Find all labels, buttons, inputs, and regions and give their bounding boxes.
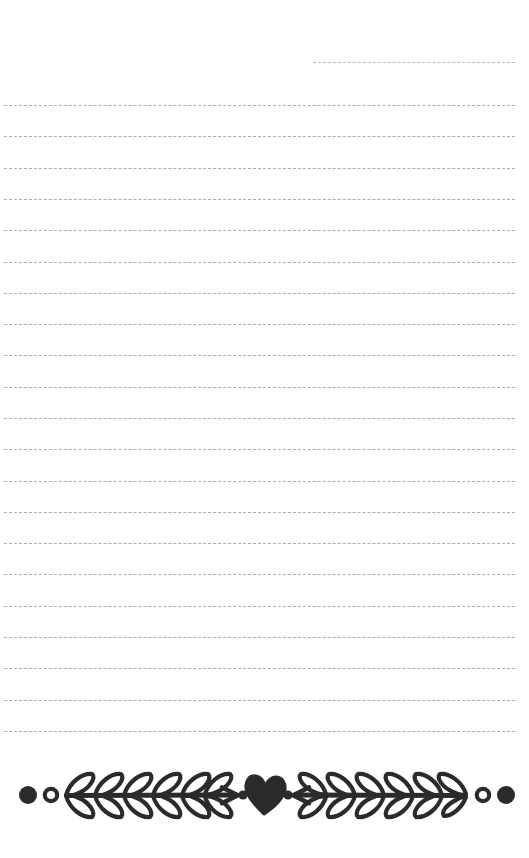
leaf-left-4-bottom [153,795,180,817]
journal-page [0,0,529,858]
leaf-right-3-top [357,774,384,796]
ruled-line [4,136,515,137]
leaf-right-4-top [386,774,413,796]
ruled-line [4,293,515,294]
ruled-line [4,731,515,732]
ruled-line [4,637,515,638]
leaf-right-3-bottom [357,795,384,817]
ruled-line [4,199,515,200]
hollow-circle-right [477,789,489,801]
leaf-left-2-top [95,774,122,796]
ruled-line [4,324,515,325]
leaf-right-5-bottom [415,795,442,817]
ruled-line [4,543,515,544]
ruled-line [4,355,515,356]
leaf-right-4-bottom [386,795,413,817]
leaf-right-2-bottom [328,795,355,817]
leaf-right-2-top [328,774,355,796]
filled-dot-left [19,786,37,804]
filled-dot-right [497,786,515,804]
leaf-left-4-top [153,774,180,796]
leaf-left-2-bottom [95,795,122,817]
heart-icon [246,776,285,814]
ruled-line [4,668,515,669]
ruled-line [4,105,515,106]
leaf-left-1-top [66,774,93,796]
ruled-line [4,230,515,231]
ruled-line [4,449,515,450]
ruled-line [4,512,515,513]
leaf-right-6-bottom [443,797,466,816]
ruled-line [4,418,515,419]
ruled-line [4,481,515,482]
ruled-line [4,574,515,575]
ruled-line-partial [313,62,515,63]
hollow-circle-left [45,789,57,801]
leaf-left-3-top [124,774,151,796]
ruled-line [4,606,515,607]
ruled-line [4,387,515,388]
ruled-line [4,168,515,169]
ruled-line [4,262,515,263]
leaf-left-1-bottom [66,795,93,817]
laurel-heart-divider [0,762,529,830]
ruled-line [4,700,515,701]
leaf-left-3-bottom [124,795,151,817]
